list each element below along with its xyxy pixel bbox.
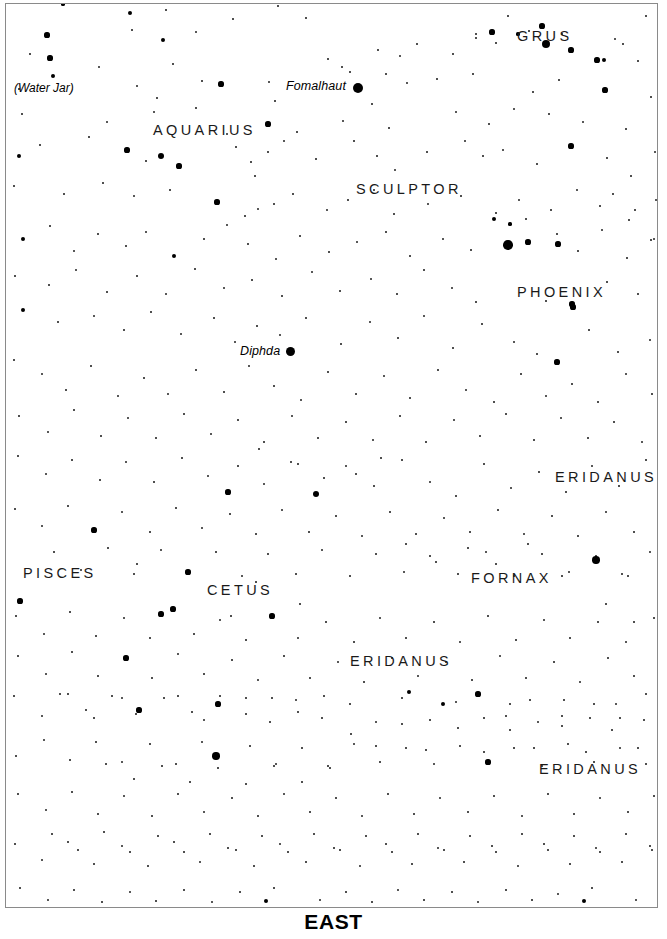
star-dot: [547, 849, 549, 851]
star-dot: [405, 747, 407, 749]
star-dot: [269, 721, 271, 723]
star-dot: [625, 833, 627, 835]
star-dot: [592, 556, 599, 563]
star-dot: [93, 717, 95, 719]
star-dot: [505, 715, 507, 717]
star-dot: [349, 71, 351, 73]
star-dot: [595, 847, 596, 848]
star-dot: [649, 339, 650, 340]
star-dot: [396, 293, 398, 295]
star-dot: [441, 702, 445, 706]
star-dot: [482, 155, 484, 157]
star-dot: [185, 569, 190, 574]
star-dot: [15, 755, 17, 757]
star-dot: [356, 241, 357, 242]
star-dot: [251, 279, 253, 281]
star-dot: [405, 637, 407, 639]
star-dot: [191, 711, 193, 713]
star-dot: [469, 835, 471, 837]
star-dot: [593, 703, 595, 705]
star-dot: [625, 128, 627, 130]
star-dot: [201, 527, 202, 528]
star-dot: [355, 393, 357, 395]
star-dot: [261, 835, 263, 837]
star-dot: [599, 205, 601, 207]
star-dot: [150, 311, 152, 313]
star-dot: [569, 637, 571, 639]
star-dot: [401, 459, 403, 461]
star-dot: [637, 747, 639, 749]
star-dot: [385, 843, 387, 845]
star-dot: [309, 811, 311, 813]
star-dot: [464, 140, 465, 141]
star-dot: [439, 797, 440, 798]
star-dot: [131, 29, 133, 31]
star-dot: [93, 863, 95, 865]
star-dot: [106, 291, 108, 293]
star-dot: [17, 455, 19, 457]
star-dot: [483, 463, 485, 465]
star-dot: [121, 511, 122, 512]
star-dot: [467, 811, 469, 813]
star-dot: [133, 573, 135, 575]
star-dot: [267, 151, 269, 153]
star-dot: [209, 833, 211, 835]
star-dot: [499, 655, 500, 656]
star-dot: [497, 509, 499, 511]
star-dot: [455, 495, 457, 497]
star-dot: [136, 275, 138, 277]
star-dot: [628, 219, 630, 221]
star-dot: [295, 699, 296, 700]
star-dot: [153, 481, 155, 483]
star-dot: [457, 573, 459, 575]
star-dot: [230, 615, 232, 617]
star-dot: [245, 697, 247, 699]
star-dot: [211, 901, 212, 902]
star-dot: [254, 175, 256, 177]
star-dot: [426, 151, 428, 153]
star-dot: [13, 359, 15, 361]
star-dot: [160, 549, 161, 550]
star-dot: [495, 851, 497, 853]
star-dot: [359, 865, 360, 866]
star-dot: [495, 563, 497, 565]
star-dot: [411, 863, 413, 865]
star-dot: [237, 465, 239, 467]
star-dot: [653, 238, 654, 239]
star-dot: [255, 533, 257, 535]
star-dot: [429, 555, 431, 557]
star-dot: [643, 719, 645, 721]
star-dot: [495, 42, 497, 44]
star-dot: [45, 673, 46, 674]
star-dot: [327, 371, 329, 373]
star-dot: [111, 695, 113, 697]
star-dot: [71, 791, 73, 793]
star-dot: [401, 697, 403, 699]
star-dot: [399, 415, 401, 417]
star-dot: [627, 811, 629, 813]
star-dot: [560, 417, 561, 418]
star-dot: [95, 741, 97, 743]
star-dot: [531, 899, 533, 901]
star-dot: [518, 199, 519, 200]
star-dot: [649, 845, 651, 847]
star-dot: [405, 543, 407, 545]
star-dot: [375, 553, 377, 555]
star-dot: [425, 441, 427, 443]
star-dot: [29, 53, 31, 55]
star-dot: [423, 269, 425, 271]
star-dot: [633, 531, 635, 533]
star-dot: [337, 661, 338, 662]
star-dot: [401, 723, 403, 725]
star-dot: [371, 103, 373, 105]
star-dot: [485, 759, 490, 764]
star-dot: [244, 215, 246, 217]
star-dot: [601, 229, 602, 230]
star-dot: [423, 899, 425, 901]
star-dot: [69, 611, 71, 613]
star-dot: [521, 833, 523, 835]
star-dot: [591, 465, 592, 466]
star-dot: [301, 781, 303, 783]
star-dot: [273, 385, 275, 387]
star-dot: [275, 763, 276, 764]
